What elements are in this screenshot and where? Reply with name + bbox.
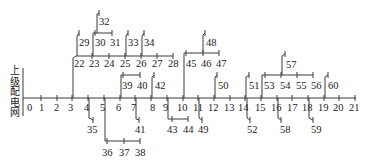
network-diagram: 0 1 2 3 4 5 6 7 8 9 10 11 12 13 14 15 16… bbox=[0, 0, 368, 165]
node-label: 28 bbox=[168, 58, 179, 69]
node-label: 37 bbox=[119, 147, 130, 158]
node-label: 10 bbox=[177, 102, 188, 113]
node-label: 0 bbox=[27, 102, 32, 113]
node-label: 38 bbox=[135, 147, 146, 158]
branch-54-57 bbox=[282, 54, 285, 75]
node-label: 43 bbox=[167, 124, 178, 135]
node-label: 34 bbox=[144, 37, 155, 48]
branch-4-35 bbox=[89, 98, 93, 120]
node-label: 47 bbox=[216, 58, 227, 69]
node-label: 13 bbox=[224, 102, 235, 113]
node-label: 11 bbox=[193, 102, 203, 113]
node-label: 8 bbox=[150, 102, 155, 113]
node-label: 36 bbox=[102, 147, 113, 158]
node-label: 3 bbox=[68, 102, 73, 113]
node-label: 18 bbox=[302, 102, 313, 113]
node-label: 31 bbox=[110, 37, 121, 48]
node-label: 21 bbox=[349, 102, 360, 113]
node-label: 60 bbox=[328, 80, 339, 91]
node-label: 54 bbox=[280, 80, 291, 91]
node-label: 48 bbox=[206, 37, 217, 48]
node-label: 33 bbox=[128, 37, 139, 48]
node-label: 6 bbox=[116, 102, 121, 113]
node-label: 19 bbox=[318, 102, 329, 113]
branch-8-42 bbox=[152, 75, 154, 98]
node-label: 50 bbox=[218, 80, 229, 91]
node-label: 29 bbox=[79, 37, 90, 48]
node-label: 49 bbox=[198, 124, 209, 135]
node-label: 27 bbox=[152, 58, 163, 69]
node-label: 14 bbox=[238, 102, 249, 113]
node-label: 7 bbox=[131, 102, 136, 113]
node-label: 46 bbox=[201, 58, 212, 69]
node-label: 23 bbox=[89, 58, 100, 69]
node-label: 56 bbox=[311, 80, 322, 91]
node-label: 59 bbox=[311, 124, 322, 135]
node-label: 20 bbox=[333, 102, 344, 113]
node-label: 41 bbox=[135, 124, 146, 135]
node-label: 5 bbox=[100, 102, 105, 113]
node-label: 32 bbox=[99, 16, 110, 27]
node-label: 22 bbox=[74, 58, 85, 69]
node-label: 17 bbox=[287, 102, 298, 113]
node-label: 26 bbox=[136, 58, 147, 69]
node-label: 53 bbox=[264, 80, 275, 91]
node-label: 1 bbox=[39, 102, 44, 113]
node-label: 45 bbox=[186, 58, 197, 69]
node-label: 24 bbox=[104, 58, 115, 69]
node-label: 55 bbox=[296, 80, 307, 91]
node-label: 58 bbox=[280, 124, 291, 135]
node-label: 15 bbox=[255, 102, 266, 113]
node-label: 9 bbox=[163, 102, 168, 113]
node-label: 16 bbox=[271, 102, 282, 113]
node-label: 12 bbox=[208, 102, 219, 113]
node-label: 51 bbox=[249, 80, 260, 91]
main-feeder-ticks bbox=[41, 95, 355, 101]
branch-12-50 bbox=[215, 75, 217, 98]
node-label: 30 bbox=[95, 37, 106, 48]
node-label: 2 bbox=[54, 102, 59, 113]
node-label: 57 bbox=[286, 59, 297, 70]
node-label: 35 bbox=[87, 124, 98, 135]
node-label: 4 bbox=[84, 102, 90, 113]
node-label: 40 bbox=[137, 80, 148, 91]
node-label: 39 bbox=[122, 80, 133, 91]
node-label: 25 bbox=[120, 58, 131, 69]
node-label: 42 bbox=[155, 80, 166, 91]
branch-7-41 bbox=[136, 98, 139, 120]
node-label: 52 bbox=[247, 124, 258, 135]
node-label: 44 bbox=[183, 124, 194, 135]
